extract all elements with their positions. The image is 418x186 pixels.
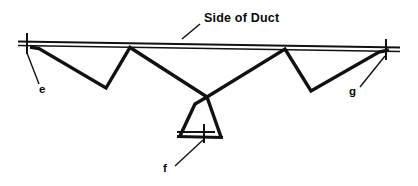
- point-label-g: g: [349, 85, 356, 97]
- leader-line-duct: [182, 24, 200, 39]
- leader-line-e: [27, 53, 39, 84]
- drop-triangle-right-edge: [207, 97, 221, 137]
- duct-side-rail: [18, 42, 400, 52]
- duct-title-label: Side of Duct: [204, 11, 280, 25]
- point-markers: [27, 33, 386, 143]
- drop-triangle: [177, 97, 223, 138]
- drop-triangle-left-edge: [180, 97, 207, 136]
- duct-diagram-figure: Side of Duct e f g: [0, 0, 418, 186]
- sag-profile-path: [30, 47, 389, 97]
- point-label-f: f: [163, 162, 167, 174]
- diagram-canvas: Side of Duct e f g: [0, 0, 418, 186]
- leader-line-f: [175, 140, 203, 166]
- point-label-e: e: [39, 83, 45, 95]
- sag-profile-polyline: [30, 47, 389, 97]
- drop-triangle-base-outer: [177, 137, 223, 138]
